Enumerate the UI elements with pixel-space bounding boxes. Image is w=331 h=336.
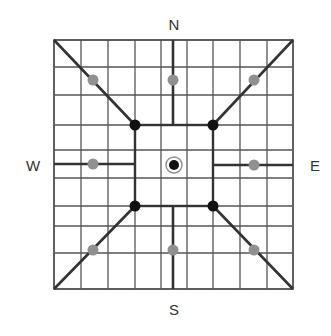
label-north: N <box>169 17 180 32</box>
center-dot <box>169 160 179 170</box>
gray-dot-s <box>168 245 179 256</box>
black-dot-sw-corner <box>130 201 141 212</box>
compass-grid-diagram <box>0 0 331 336</box>
gray-dot-sw <box>88 245 99 256</box>
gray-dot-se <box>249 245 260 256</box>
gray-dot-e <box>249 160 260 171</box>
label-east: E <box>310 158 320 173</box>
black-dot-nw-corner <box>130 120 141 131</box>
black-dot-ne-corner <box>208 120 219 131</box>
gray-dot-n <box>168 75 179 86</box>
label-west: W <box>26 158 40 173</box>
black-dot-se-corner <box>208 201 219 212</box>
center-marker <box>166 157 182 173</box>
gray-dot-w <box>88 159 99 170</box>
gray-dot-ne <box>249 75 260 86</box>
label-south: S <box>169 302 179 317</box>
gray-dot-nw <box>88 75 99 86</box>
